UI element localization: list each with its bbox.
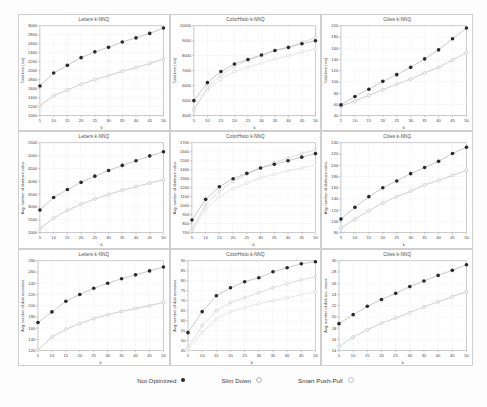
svg-text:280: 280 (28, 258, 36, 263)
svg-text:5: 5 (192, 118, 195, 123)
svg-text:15: 15 (64, 352, 69, 357)
svg-text:50: 50 (180, 338, 185, 343)
figure-canvas: Letters k-NNQ 10001200140016001800200022… (0, 0, 487, 407)
svg-text:30: 30 (258, 235, 263, 240)
svg-text:Avg. number of disk accesses: Avg. number of disk accesses (20, 279, 25, 331)
svg-text:60: 60 (334, 102, 339, 107)
svg-text:800: 800 (182, 221, 190, 226)
svg-text:50: 50 (161, 118, 166, 123)
svg-text:4000: 4000 (28, 179, 38, 184)
svg-text:30: 30 (408, 352, 413, 357)
svg-text:80: 80 (334, 230, 339, 235)
svg-text:1500: 1500 (180, 159, 190, 164)
svg-text:70: 70 (180, 298, 185, 303)
svg-text:50: 50 (161, 235, 166, 240)
svg-text:40: 40 (133, 352, 138, 357)
svg-text:k: k (403, 125, 406, 130)
panel-cities-time: Cities k-NNQ 406080100120140160180200510… (321, 14, 473, 131)
svg-text:15: 15 (218, 118, 223, 123)
svg-text:40: 40 (134, 235, 139, 240)
panel-cities-diskacc: Cities k-NNQ 141618202224262830510152025… (321, 249, 473, 366)
svg-text:200: 200 (332, 163, 340, 168)
svg-text:2500: 2500 (28, 218, 38, 223)
svg-text:40: 40 (436, 352, 441, 357)
svg-text:50: 50 (313, 352, 318, 357)
panel-colorhisto-diskacc: ColorHisto k-NNQ 45505560657075808590510… (170, 249, 322, 366)
svg-text:35: 35 (423, 235, 428, 240)
svg-text:35: 35 (270, 352, 275, 357)
svg-text:25: 25 (245, 118, 250, 123)
svg-text:5: 5 (340, 235, 343, 240)
svg-text:25: 25 (93, 235, 98, 240)
svg-text:120: 120 (332, 68, 340, 73)
svg-text:Avg. number of distance calcs.: Avg. number of distance calcs. (172, 161, 177, 214)
svg-text:35: 35 (272, 235, 277, 240)
svg-text:30: 30 (409, 235, 414, 240)
svg-text:260: 260 (28, 269, 36, 274)
legend-entry-smart-push-pull: Smart Push-Pull (298, 377, 354, 384)
svg-text:5: 5 (187, 352, 190, 357)
svg-text:45: 45 (147, 118, 152, 123)
svg-text:2800: 2800 (28, 32, 38, 37)
svg-text:15: 15 (65, 118, 70, 123)
svg-text:180: 180 (332, 174, 340, 179)
svg-text:k: k (101, 242, 104, 247)
svg-text:140: 140 (332, 197, 340, 202)
svg-text:3500: 3500 (28, 192, 38, 197)
svg-text:25: 25 (395, 235, 400, 240)
plot-area: 1000120014001600180020002200240026002800… (19, 15, 169, 130)
svg-text:2400: 2400 (28, 50, 38, 55)
svg-text:2000: 2000 (28, 68, 38, 73)
plot-area: 7008009001000110012001300140015001600170… (171, 132, 321, 247)
svg-text:25: 25 (395, 118, 400, 123)
panel-grid: Letters k-NNQ 10001200140016001800200022… (18, 14, 473, 366)
svg-text:45: 45 (147, 235, 152, 240)
svg-text:240: 240 (28, 280, 36, 285)
svg-text:15: 15 (367, 235, 372, 240)
svg-text:900: 900 (182, 212, 190, 217)
svg-text:1200: 1200 (180, 185, 190, 190)
svg-text:30: 30 (106, 118, 111, 123)
svg-text:50: 50 (161, 352, 166, 357)
plot-area: 1201401601802002202402602805101520253035… (19, 250, 169, 365)
svg-text:5: 5 (37, 352, 40, 357)
svg-text:40: 40 (285, 235, 290, 240)
legend-entry-slim-down: Slim Down (221, 377, 262, 384)
svg-text:10: 10 (50, 352, 55, 357)
svg-text:20: 20 (380, 352, 385, 357)
svg-text:1300: 1300 (180, 176, 190, 181)
svg-text:1000: 1000 (28, 113, 38, 118)
svg-text:45: 45 (451, 118, 456, 123)
svg-text:16: 16 (332, 336, 337, 341)
svg-text:120: 120 (332, 208, 340, 213)
legend-label: Not Optimized (137, 377, 176, 384)
legend-label: Smart Push-Pull (298, 377, 343, 384)
svg-text:40: 40 (285, 352, 290, 357)
svg-text:40: 40 (437, 235, 442, 240)
svg-text:Total time (ms): Total time (ms) (20, 57, 25, 83)
svg-text:25: 25 (93, 118, 98, 123)
svg-text:160: 160 (332, 46, 340, 51)
svg-text:10: 10 (205, 118, 210, 123)
svg-text:9000: 9000 (182, 38, 192, 43)
svg-text:1100: 1100 (180, 194, 190, 199)
svg-text:90: 90 (180, 258, 185, 263)
svg-text:1600: 1600 (180, 150, 190, 155)
svg-text:200: 200 (28, 303, 36, 308)
svg-text:35: 35 (119, 352, 124, 357)
svg-text:10: 10 (51, 235, 56, 240)
svg-text:25: 25 (91, 352, 96, 357)
svg-text:1800: 1800 (28, 77, 38, 82)
svg-text:80: 80 (180, 278, 185, 283)
svg-text:50: 50 (465, 118, 470, 123)
svg-text:30: 30 (256, 352, 261, 357)
svg-text:10: 10 (353, 235, 358, 240)
svg-text:5: 5 (39, 235, 42, 240)
svg-text:80: 80 (334, 91, 339, 96)
svg-text:8000: 8000 (182, 53, 192, 58)
svg-text:10: 10 (200, 352, 205, 357)
svg-text:55: 55 (180, 328, 185, 333)
svg-text:65: 65 (180, 308, 185, 313)
svg-text:45: 45 (451, 235, 456, 240)
svg-text:45: 45 (299, 352, 304, 357)
